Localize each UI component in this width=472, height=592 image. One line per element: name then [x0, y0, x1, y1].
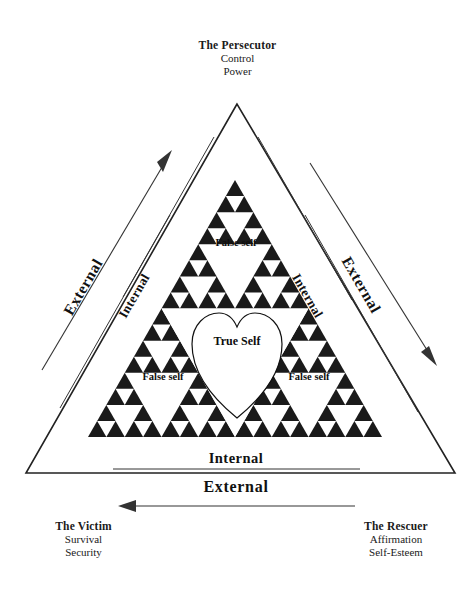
bottom-arrow-left-icon	[118, 500, 355, 512]
figure-root: The Persecutor Control Power The Victim …	[0, 0, 472, 592]
victim-trait-security: Security	[16, 546, 151, 559]
false-self-top-label: False self	[192, 237, 280, 248]
victim-trait-survival: Survival	[16, 533, 151, 546]
persecutor-title: The Persecutor	[150, 38, 325, 52]
victim-title: The Victim	[16, 519, 151, 533]
false-self-right-label: False self	[265, 371, 353, 382]
rescuer-role-block: The Rescuer Affirmation Self-Esteem	[330, 519, 462, 560]
rescuer-title: The Rescuer	[330, 519, 462, 533]
rescuer-trait-self-esteem: Self-Esteem	[330, 546, 462, 559]
victim-role-block: The Victim Survival Security	[16, 519, 151, 560]
base-external-label: External	[0, 478, 472, 496]
persecutor-trait-control: Control	[150, 52, 325, 65]
persecutor-role-block: The Persecutor Control Power	[150, 38, 325, 79]
base-internal-label: Internal	[0, 450, 472, 467]
rescuer-trait-affirmation: Affirmation	[330, 533, 462, 546]
false-self-left-label: False self	[119, 371, 207, 382]
true-self-label: True Self	[193, 334, 281, 349]
persecutor-trait-power: Power	[150, 65, 325, 78]
